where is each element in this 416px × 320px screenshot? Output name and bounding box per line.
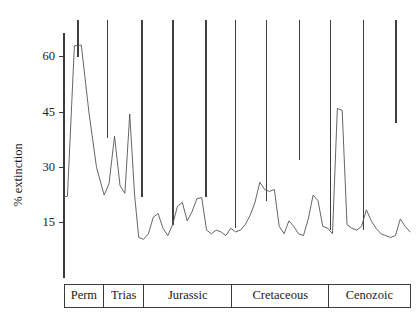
- period-label: Cretaceous: [252, 288, 308, 302]
- y-tick-label: 60: [43, 49, 56, 63]
- y-axis-group: 15304560 % extinction: [11, 33, 64, 278]
- y-tick-label: 15: [43, 215, 56, 229]
- period-label: Trias: [111, 288, 136, 302]
- stage-boundary-markers: [78, 20, 396, 230]
- y-tick-label: 45: [43, 105, 56, 119]
- y-tick-label: 30: [43, 160, 56, 174]
- y-axis-title: % extinction: [11, 142, 25, 206]
- extinction-data-curve: [64, 45, 410, 239]
- period-label: Cenozoic: [346, 288, 394, 302]
- extinction-chart-figure: 15304560 % extinction PermTriasJurassicC…: [0, 0, 416, 320]
- y-axis-ticks: 15304560: [43, 49, 65, 229]
- period-label: Perm: [71, 288, 98, 302]
- period-axis: PermTriasJurassicCretaceousCenozoic: [64, 284, 410, 307]
- period-label: Jurassic: [168, 288, 208, 302]
- chart-canvas: 15304560 % extinction PermTriasJurassicC…: [0, 0, 416, 320]
